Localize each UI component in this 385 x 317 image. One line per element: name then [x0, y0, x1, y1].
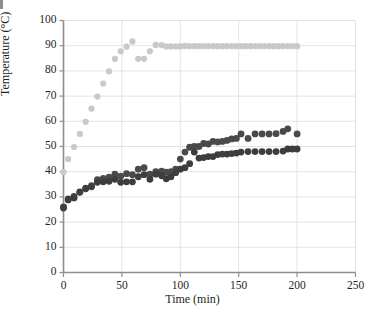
data-point: [106, 178, 113, 185]
x-tick-label: 250: [342, 279, 370, 291]
data-point: [135, 173, 142, 180]
data-point: [135, 166, 142, 173]
data-point: [147, 48, 153, 54]
page-edge-artifact: [0, 0, 3, 9]
data-point: [94, 179, 101, 186]
data-point: [65, 197, 72, 204]
y-tick-label: 10: [45, 240, 57, 252]
data-point: [129, 171, 136, 178]
data-point: [88, 183, 95, 190]
data-point: [284, 125, 291, 132]
data-point: [88, 106, 94, 112]
data-point: [100, 178, 107, 185]
data-point: [152, 171, 159, 178]
data-point: [245, 148, 252, 155]
data-point: [294, 43, 300, 49]
data-point: [153, 42, 159, 48]
x-tick-label: 150: [225, 279, 253, 291]
y-tick-label: 40: [45, 164, 57, 176]
data-point: [60, 205, 67, 212]
data-point: [123, 178, 130, 185]
y-tick-label: 50: [45, 139, 57, 151]
data-point: [186, 160, 193, 167]
data-point: [129, 178, 136, 185]
y-tick-label: 30: [45, 189, 57, 201]
data-point: [129, 38, 135, 44]
y-tick-label: 0: [51, 265, 57, 277]
data-point: [141, 56, 147, 62]
data-point: [106, 68, 112, 74]
x-tick-label: 50: [108, 279, 136, 291]
data-point: [266, 148, 273, 155]
y-tick-label: 80: [45, 63, 57, 75]
data-point: [266, 131, 273, 138]
data-point: [245, 135, 252, 142]
data-point: [177, 156, 184, 163]
data-point: [117, 173, 124, 180]
x-tick-label: 100: [166, 279, 194, 291]
data-point: [259, 131, 266, 138]
x-tick-label: 0: [50, 279, 78, 291]
data-point: [94, 94, 100, 100]
data-point: [259, 148, 266, 155]
data-point: [238, 131, 245, 138]
data-point: [112, 56, 118, 62]
y-tick-label: 100: [39, 13, 56, 25]
data-point: [117, 179, 124, 186]
data-point: [111, 176, 118, 183]
data-point: [76, 189, 83, 196]
x-axis-title: Time (min): [0, 292, 385, 307]
data-point: [123, 170, 130, 177]
data-point: [123, 44, 129, 50]
data-point: [71, 144, 77, 150]
y-tick-label: 90: [45, 38, 57, 50]
y-axis-title: Temperature (°C): [0, 80, 13, 96]
data-point: [273, 130, 280, 137]
data-point: [273, 148, 280, 155]
data-point: [83, 119, 89, 125]
data-point: [82, 185, 89, 192]
data-point: [294, 131, 301, 138]
data-point: [252, 131, 259, 138]
data-point: [65, 156, 71, 162]
plot-canvas: [0, 0, 385, 317]
x-tick-label: 200: [283, 279, 311, 291]
data-point: [100, 80, 106, 86]
data-point: [191, 149, 198, 156]
data-point: [118, 48, 124, 54]
data-point: [71, 195, 78, 202]
data-point: [238, 149, 245, 156]
data-point: [135, 56, 141, 62]
data-point: [141, 171, 148, 178]
y-tick-label: 70: [45, 89, 57, 101]
data-point: [252, 148, 259, 155]
y-tick-label: 20: [45, 215, 57, 227]
data-point: [60, 169, 66, 175]
data-point: [141, 164, 148, 171]
scatter-chart-figure: 0102030405060708090100050100150200250 Te…: [0, 0, 385, 317]
y-tick-label: 60: [45, 114, 57, 126]
data-point: [77, 131, 83, 137]
data-point: [147, 176, 154, 183]
data-point: [294, 146, 301, 153]
